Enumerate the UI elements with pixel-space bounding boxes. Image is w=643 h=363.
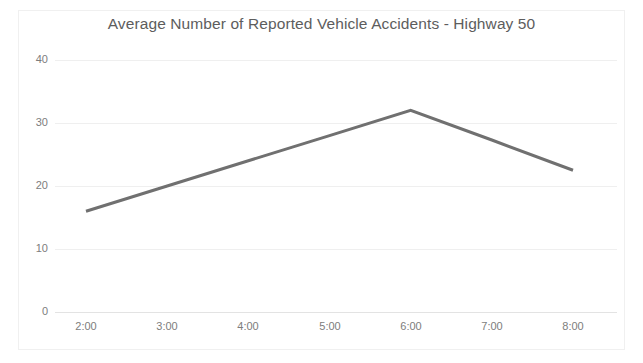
plot-area: 40 30 20 10 0 2:00 3:00 4:00 5:00 6:00 7… (0, 0, 643, 363)
series-line-accidents (86, 110, 573, 211)
series-svg (0, 0, 643, 363)
